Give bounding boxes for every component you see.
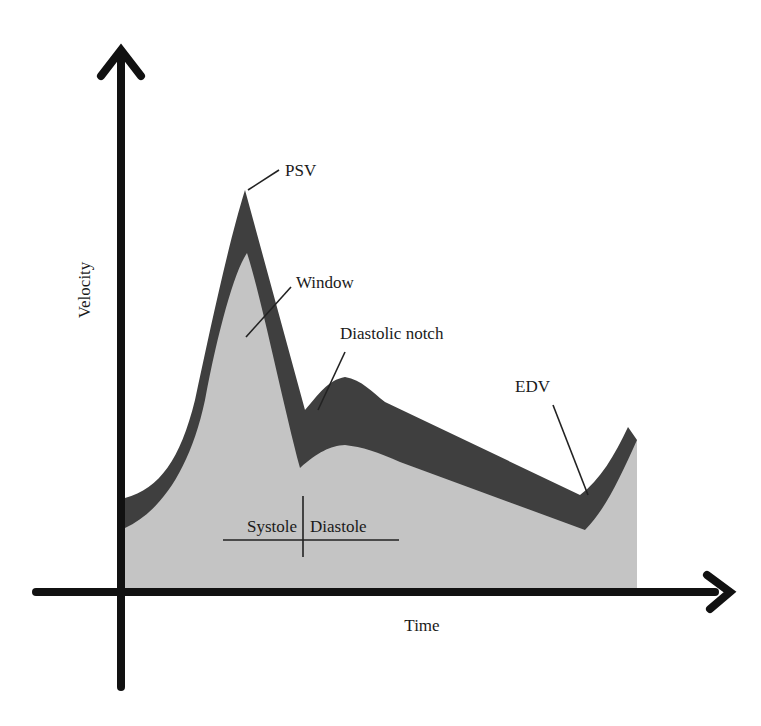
window-label: Window — [296, 273, 355, 292]
psv-label: PSV — [285, 161, 317, 180]
diastolic-notch-label: Diastolic notch — [340, 324, 444, 343]
doppler-waveform-diagram: Velocity Time PSV Window Diastolic notch… — [0, 0, 761, 726]
edv-leader-line — [553, 405, 588, 495]
systole-label: Systole — [247, 517, 297, 536]
psv-leader-line — [248, 170, 279, 190]
diastole-label: Diastole — [310, 517, 367, 536]
y-axis-label: Velocity — [75, 261, 94, 318]
edv-label: EDV — [515, 377, 551, 396]
x-axis-label: Time — [404, 616, 439, 635]
